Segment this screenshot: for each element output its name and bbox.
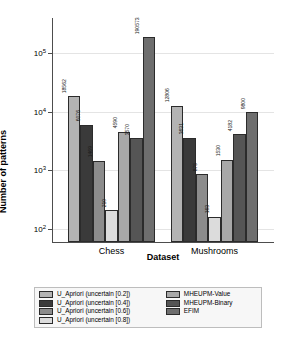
bar: 163 xyxy=(208,217,220,242)
bar-value-label: 6076 xyxy=(76,110,81,121)
bar-value-label: 163 xyxy=(205,205,210,213)
bar-value-label: 18562 xyxy=(62,79,67,93)
bar: 4590 xyxy=(118,132,130,242)
legend-item[interactable]: U_Apriori (uncertain [0.8]) xyxy=(39,317,162,324)
legend-item[interactable]: U_Apriori (uncertain [0.4]) xyxy=(39,300,162,307)
bar: 1530 xyxy=(221,160,233,242)
legend-label: EFIM xyxy=(184,308,199,314)
legend-swatch xyxy=(39,317,53,324)
bar-value-label: 12806 xyxy=(165,89,170,103)
bar-value-label: 9800 xyxy=(241,98,246,109)
y-axis-tick xyxy=(48,53,52,54)
bar-value-label: 4182 xyxy=(229,120,234,131)
bar: 9800 xyxy=(246,112,258,242)
legend-label: U_Apriori (uncertain [0.2]) xyxy=(57,291,130,297)
legend-swatch xyxy=(166,291,180,298)
bar-value-label: 3631 xyxy=(179,123,184,134)
bar: 190573 xyxy=(143,37,155,242)
legend-swatch xyxy=(39,308,53,315)
legend-item[interactable]: U_Apriori (uncertain [0.6]) xyxy=(39,308,162,315)
y-axis-tick xyxy=(48,170,52,171)
bar: 3631 xyxy=(183,138,195,242)
legend-swatch xyxy=(39,300,53,307)
bar-value-label: 875 xyxy=(193,162,198,170)
x-axis-title: Dataset xyxy=(52,252,274,262)
bar: 210 xyxy=(105,210,117,242)
bar-chart: Number of patterns 102103104105 18562607… xyxy=(0,0,293,349)
bar-value-label: 1530 xyxy=(216,145,221,156)
legend-label: U_Apriori (uncertain [0.6]) xyxy=(57,308,130,314)
bar-value-label: 190573 xyxy=(135,17,140,34)
y-axis-tick-label: 103 xyxy=(34,165,46,176)
y-axis-tick-label: 104 xyxy=(34,107,46,118)
y-axis-line xyxy=(52,18,53,242)
legend-item[interactable]: EFIM xyxy=(166,308,257,315)
x-axis-line xyxy=(52,242,274,243)
y-axis-tick xyxy=(48,229,52,230)
y-axis-tick-label: 105 xyxy=(34,48,46,59)
legend-item[interactable]: MHEUPM-Value xyxy=(166,291,257,298)
legend-label: U_Apriori (uncertain [0.4]) xyxy=(57,300,130,306)
legend-swatch xyxy=(166,308,180,315)
bar-value-label: 4590 xyxy=(113,118,118,129)
bar: 6076 xyxy=(80,125,92,242)
legend-label: MHEUPM-Value xyxy=(184,291,230,297)
plot-area: 102103104105 185626076146921045903570190… xyxy=(52,18,274,242)
gridline xyxy=(53,53,274,54)
legend-item[interactable]: MHEUPM-Binary xyxy=(166,300,257,307)
legend-label: MHEUPM-Binary xyxy=(184,300,233,306)
legend-column-right: MHEUPM-ValueMHEUPM-BinaryEFIM xyxy=(166,291,257,324)
bar-value-label: 1469 xyxy=(88,147,93,158)
bar: 3570 xyxy=(130,138,142,242)
gridline xyxy=(53,112,274,113)
bar-value-label: 210 xyxy=(102,199,107,207)
bar: 4182 xyxy=(233,134,245,242)
bar-value-label: 3570 xyxy=(126,124,131,135)
legend-column-left: U_Apriori (uncertain [0.2])U_Apriori (un… xyxy=(39,291,162,324)
y-axis-title: Number of patterns xyxy=(0,130,8,213)
legend-label: U_Apriori (uncertain [0.8]) xyxy=(57,317,130,323)
legend: U_Apriori (uncertain [0.2])U_Apriori (un… xyxy=(34,287,262,328)
legend-swatch xyxy=(166,300,180,307)
y-axis-tick xyxy=(48,112,52,113)
legend-item[interactable]: U_Apriori (uncertain [0.2]) xyxy=(39,291,162,298)
legend-swatch xyxy=(39,291,53,298)
y-axis-tick-label: 102 xyxy=(34,224,46,235)
